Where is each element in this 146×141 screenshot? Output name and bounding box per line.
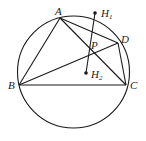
label-h2: H2 <box>90 68 103 82</box>
label-p: P <box>90 39 98 51</box>
label-b: B <box>8 79 15 91</box>
segment-bd <box>19 43 118 85</box>
segment-da <box>60 18 118 43</box>
geometry-diagram: A B C D P H1 H2 <box>0 0 146 141</box>
label-d: D <box>120 33 129 45</box>
point-h2 <box>84 71 88 75</box>
point-h1 <box>93 11 97 15</box>
label-h1: H1 <box>100 7 112 21</box>
label-a: A <box>54 5 62 17</box>
label-c: C <box>130 79 138 91</box>
